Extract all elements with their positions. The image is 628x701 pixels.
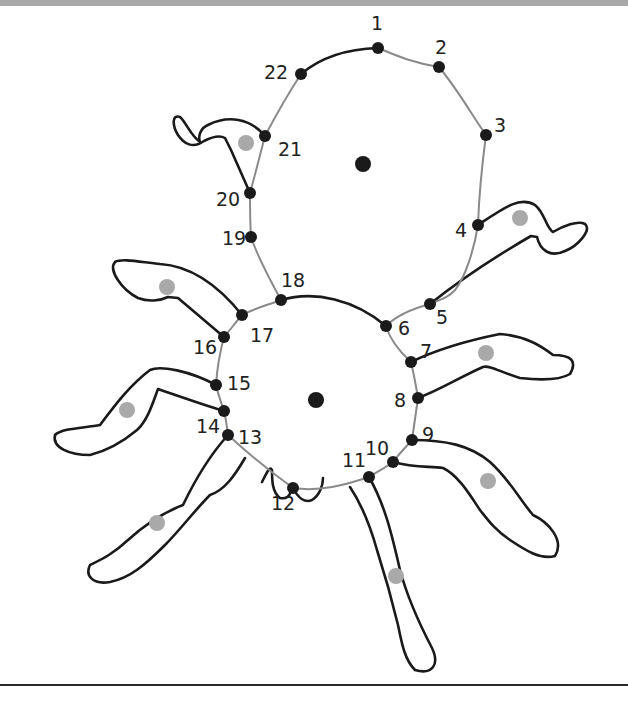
leg-marker-dot [159,279,175,295]
dot-label-2: 2 [435,36,447,58]
leg-marker-dot [119,402,135,418]
leg-outline-top-left [174,116,265,193]
leg-marker-dot [478,345,494,361]
dot-label-18: 18 [281,269,305,291]
dot-label-13: 13 [238,426,262,448]
body-top-arc [281,296,386,326]
dot-15 [210,379,222,391]
dot-4 [472,219,484,231]
bottom-divider [0,684,628,686]
dot-16 [218,331,230,343]
head-top-arc [301,48,378,74]
dot-label-7: 7 [420,340,432,362]
leg-outline-low-left [55,368,224,455]
dot-label-3: 3 [494,114,506,136]
dot-label-10: 10 [365,437,389,459]
leg-outline-mid-left [113,260,242,337]
leg-marker-dot [512,210,528,226]
leg-outline-top-right [430,202,587,304]
dot-label-4: 4 [455,219,467,241]
dot-label-19: 19 [222,227,246,249]
leg-markers [119,135,528,584]
dot-label-14: 14 [196,415,220,437]
dot-label-6: 6 [398,317,410,339]
dot-22 [295,68,307,80]
dot-label-15: 15 [227,372,251,394]
guide-lines [216,48,486,489]
dot-18 [275,294,287,306]
dot-13 [222,429,234,441]
dot-label-12: 12 [271,492,295,514]
dot-20 [244,187,256,199]
body-center-dot [308,392,324,408]
leg-outline-low-right [393,440,558,557]
dot-3 [480,129,492,141]
dot-label-16: 16 [193,336,217,358]
leg-outline-mid-right [411,334,573,398]
dot-6 [380,320,392,332]
leg-marker-dot [480,473,496,489]
dot-17 [236,309,248,321]
dot-11 [363,471,375,483]
leg-marker-dot [238,135,254,151]
dot-label-17: 17 [250,324,274,346]
dot-2 [433,61,445,73]
dot-label-8: 8 [394,389,406,411]
leg-outline-bottom-left [88,435,245,583]
dot-numbers: 1 2 3 4 5 6 7 8 9 10 11 12 13 14 15 16 1… [193,12,506,514]
head-center-dot [355,156,371,172]
dot-1 [372,42,384,54]
dot-label-1: 1 [371,12,383,34]
leg-marker-dot [149,515,165,531]
spider-outline [55,48,587,671]
dot-7 [405,356,417,368]
dot-label-5: 5 [436,306,448,328]
dot-8 [412,392,424,404]
dot-21 [259,130,271,142]
dot-9 [406,434,418,446]
dot-label-20: 20 [216,188,240,210]
dot-19 [245,231,257,243]
dot-5 [424,298,436,310]
dot-label-11: 11 [342,449,366,471]
dot-label-22: 22 [264,61,288,83]
dot-label-9: 9 [422,423,434,445]
dot-label-21: 21 [278,138,302,160]
leg-marker-dot [388,568,404,584]
spider-dot-to-dot: 1 2 3 4 5 6 7 8 9 10 11 12 13 14 15 16 1… [0,0,628,701]
